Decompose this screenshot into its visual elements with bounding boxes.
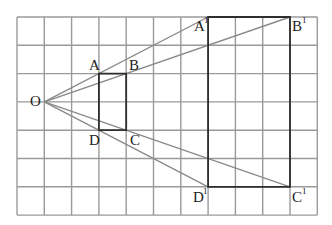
ray-O-to-C-prime — [44, 102, 290, 187]
label-B-prime: B — [292, 18, 302, 34]
label-C: C — [130, 132, 140, 148]
homothety-diagram: O A B C D A 1 B 1 C 1 D 1 — [0, 0, 332, 225]
label-B-prime-sup: 1 — [302, 15, 307, 25]
ray-O-to-B-prime — [44, 17, 290, 102]
label-C-prime-sup: 1 — [302, 186, 307, 196]
label-B: B — [129, 57, 139, 73]
label-A: A — [89, 57, 100, 73]
label-C-prime: C — [292, 189, 302, 205]
label-D-prime-sup: 1 — [203, 186, 208, 196]
label-A-prime-sup: 1 — [204, 15, 209, 25]
grid — [17, 17, 317, 215]
label-D: D — [89, 132, 100, 148]
label-O: O — [30, 93, 41, 109]
